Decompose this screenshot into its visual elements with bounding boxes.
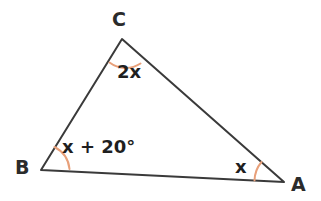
triangle-drawing: [0, 0, 321, 201]
angle-label-a: x: [235, 158, 247, 176]
vertex-label-b: B: [15, 158, 29, 177]
triangle-figure: C B A 2x x + 20° x: [0, 0, 321, 201]
vertex-label-c: C: [112, 10, 126, 29]
angle-label-c: 2x: [117, 63, 141, 81]
triangle-outline: [41, 39, 284, 182]
vertex-label-a: A: [291, 175, 306, 194]
angle-label-b: x + 20°: [62, 138, 135, 156]
